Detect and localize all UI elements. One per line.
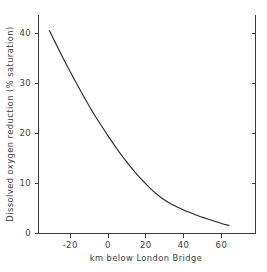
data-curve-dissolved-oxygen	[49, 31, 229, 226]
y-tick-label-20: 20	[19, 128, 31, 138]
x-tick-label-20: 20	[140, 240, 152, 250]
x-tick-labels: -20 0 20 40 60	[63, 240, 228, 250]
x-tick-label--20: -20	[63, 240, 78, 250]
y-axis-ticks	[35, 33, 39, 234]
x-tick-label-0: 0	[105, 240, 111, 250]
x-tick-label-40: 40	[178, 240, 190, 250]
x-axis-ticks	[70, 234, 221, 238]
y-tick-label-30: 30	[19, 78, 31, 88]
y-tick-label-10: 10	[19, 178, 31, 188]
chart-figure: 0 10 20 30 40 -20 0 20 40 60 km below Lo…	[0, 0, 267, 272]
y-tick-labels: 0 10 20 30 40	[19, 28, 31, 239]
x-tick-label-60: 60	[216, 240, 228, 250]
x-axis-title: km below London Bridge	[90, 253, 203, 263]
y-tick-label-0: 0	[25, 228, 31, 238]
y-axis-title: Dissolved oxygen reduction (% saturation…	[5, 26, 15, 221]
right-axis-ticks	[252, 33, 256, 234]
y-tick-label-40: 40	[19, 28, 31, 38]
chart-plot-area: 0 10 20 30 40 -20 0 20 40 60 km below Lo…	[0, 0, 267, 272]
